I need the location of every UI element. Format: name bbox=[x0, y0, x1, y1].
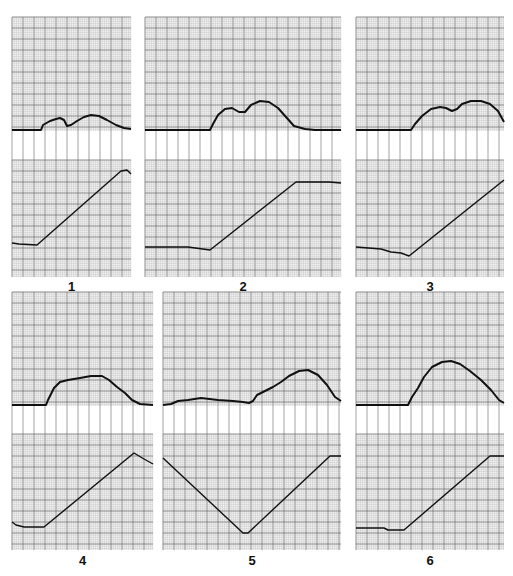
panel-label: 5 bbox=[232, 553, 272, 568]
chart-panel-4 bbox=[12, 292, 153, 550]
panel-label: 4 bbox=[63, 553, 103, 568]
chart-panel-2 bbox=[145, 17, 341, 277]
panel-label: 6 bbox=[410, 553, 450, 568]
chart-panel-svg bbox=[12, 17, 131, 277]
chart-panel-svg bbox=[12, 292, 153, 550]
chart-panel-6 bbox=[356, 292, 504, 550]
chart-panel-5 bbox=[163, 292, 341, 550]
chart-panel-1 bbox=[12, 17, 131, 277]
chart-panel-3 bbox=[356, 17, 504, 277]
chart-panel-svg bbox=[145, 17, 341, 277]
chart-panel-svg bbox=[163, 292, 341, 550]
chart-panel-svg bbox=[356, 292, 504, 550]
chart-panel-svg bbox=[356, 17, 504, 277]
